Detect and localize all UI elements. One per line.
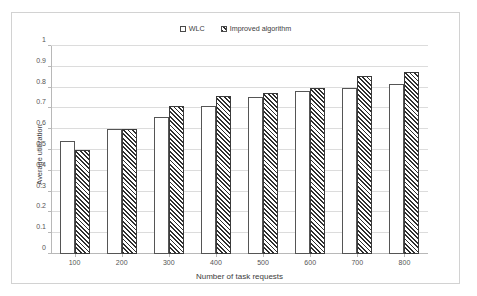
x-tick-mark: [75, 254, 76, 257]
x-tick-label: 100: [69, 259, 81, 266]
legend-swatch-icon-wlc: [180, 26, 186, 32]
y-tick-label: 0.1: [36, 223, 46, 230]
bar: [342, 88, 357, 254]
x-tick-label: 400: [210, 259, 222, 266]
x-tick-mark: [263, 254, 264, 257]
y-tick-label: 0: [42, 244, 46, 251]
x-tick-mark: [404, 254, 405, 257]
bar: [357, 76, 372, 254]
x-tick-mark: [216, 254, 217, 257]
bar: [295, 91, 310, 254]
x-axis-title: Number of task requests: [51, 272, 428, 281]
chart-legend: WLC Improved algorithm: [12, 24, 459, 33]
chart-frame: WLC Improved algorithm Average utilizati…: [11, 12, 460, 284]
y-tick-label: 0.7: [36, 98, 46, 105]
y-tick-label: 0.6: [36, 119, 46, 126]
y-tick-label: 0.2: [36, 202, 46, 209]
legend-label-wlc: WLC: [189, 24, 205, 33]
x-tick-mark: [122, 254, 123, 257]
plot-area: 00.10.20.30.40.50.60.70.80.91 1002003004…: [51, 46, 428, 254]
bar: [201, 106, 216, 254]
y-axis-title: Average utilization: [35, 124, 44, 184]
bar: [263, 93, 278, 254]
bar-group: 100: [51, 46, 98, 254]
x-tick-label: 200: [116, 259, 128, 266]
x-tick-mark: [310, 254, 311, 257]
y-tick-label: 0.4: [36, 160, 46, 167]
bar: [248, 97, 263, 254]
bar-groups: 100200300400500600700800: [51, 46, 428, 254]
legend-label-improved-algorithm: Improved algorithm: [230, 24, 292, 33]
bar: [60, 141, 75, 254]
x-tick-label: 300: [163, 259, 175, 266]
y-tick-label: 0.3: [36, 181, 46, 188]
bar: [216, 96, 231, 254]
bar: [310, 88, 325, 254]
bar: [404, 72, 419, 254]
bar-group: 400: [192, 46, 239, 254]
legend-entry-improved-algorithm: Improved algorithm: [221, 24, 292, 33]
x-tick-label: 700: [351, 259, 363, 266]
bar-group: 800: [381, 46, 428, 254]
bar-group: 300: [145, 46, 192, 254]
x-tick-mark: [169, 254, 170, 257]
x-tick-label: 500: [257, 259, 269, 266]
y-tick-label: 1: [42, 36, 46, 43]
bar-group: 200: [98, 46, 145, 254]
bar: [154, 117, 169, 254]
bar: [122, 129, 137, 254]
bar-group: 500: [240, 46, 287, 254]
legend-swatch-icon-improved-algorithm: [221, 26, 227, 32]
bar: [107, 129, 122, 254]
legend-entry-wlc: WLC: [180, 24, 205, 33]
bar-group: 700: [334, 46, 381, 254]
bar: [75, 150, 90, 254]
y-tick-label: 0.8: [36, 77, 46, 84]
x-tick-label: 600: [304, 259, 316, 266]
bar: [389, 84, 404, 254]
x-tick-mark: [357, 254, 358, 257]
bar-group: 600: [287, 46, 334, 254]
y-tick-label: 0.5: [36, 140, 46, 147]
x-tick-label: 800: [399, 259, 411, 266]
y-tick-label: 0.9: [36, 56, 46, 63]
bar: [169, 106, 184, 254]
